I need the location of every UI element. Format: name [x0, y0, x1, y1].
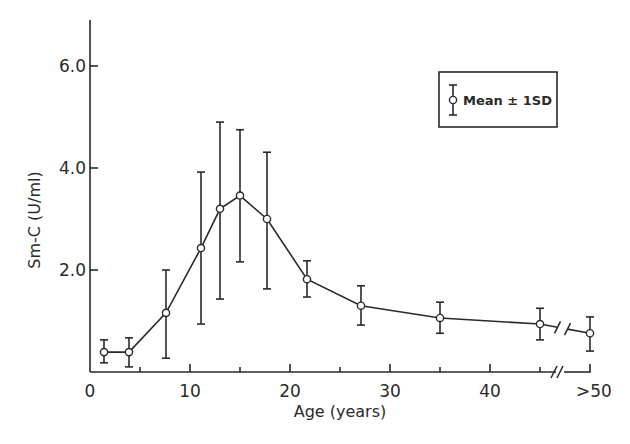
mean-line — [104, 196, 540, 353]
data-point — [125, 349, 132, 356]
x-tick-label: 10 — [179, 381, 201, 401]
x-axis-title: Age (years) — [294, 402, 387, 421]
data-point — [586, 330, 593, 337]
y-tick-label: 6.0 — [59, 56, 86, 76]
x-tick-label: 20 — [279, 381, 301, 401]
legend: Mean ± 1SD — [439, 72, 557, 127]
data-point — [197, 244, 204, 251]
data-point — [436, 314, 443, 321]
x-tick-label: >50 — [576, 381, 612, 401]
data-point — [357, 302, 364, 309]
data-markers — [100, 192, 593, 356]
x-tick-label: 30 — [379, 381, 401, 401]
legend-label: Mean ± 1SD — [463, 93, 552, 108]
data-point — [303, 276, 310, 283]
data-point — [236, 192, 243, 199]
data-point — [216, 205, 223, 212]
data-point — [536, 320, 543, 327]
x-tick-label: 0 — [85, 381, 96, 401]
y-tick-label: 2.0 — [59, 260, 86, 280]
data-point — [162, 309, 169, 316]
data-point — [100, 349, 107, 356]
y-axis-title: Sm-C (U/ml) — [25, 171, 44, 268]
axis-break-icon — [557, 366, 563, 378]
x-tick-label: 40 — [479, 381, 501, 401]
chart: 2.04.06.0010203040>50 Mean ± 1SD Age (ye… — [0, 0, 630, 444]
error-bars — [100, 122, 594, 367]
data-point — [263, 215, 270, 222]
y-tick-label: 4.0 — [59, 158, 86, 178]
